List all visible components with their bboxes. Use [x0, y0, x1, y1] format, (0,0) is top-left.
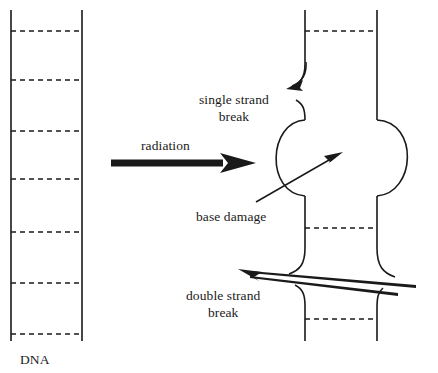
base-damage-pointer-shaft: [256, 156, 336, 202]
single-strand-break-pointer-head: [286, 80, 303, 91]
single-strand-break-pointer-arrow: [286, 62, 306, 91]
base-damage-label: base damage: [196, 209, 266, 226]
damaged-dna-right-strand-lower-mid: [377, 196, 395, 277]
damaged-dna-left-strand-bottom: [295, 285, 305, 341]
damaged-dna-left-strand-bubble: [276, 120, 305, 196]
double-strand-break-pointer-arrow: [238, 269, 416, 296]
dna-label: DNA: [20, 352, 50, 369]
radiation-arrow-shaft: [111, 160, 223, 167]
radiation-arrow: [111, 153, 256, 173]
intact-dna-group: [11, 10, 82, 341]
base-damage-pointer-head: [324, 152, 343, 164]
damaged-dna-left-strand-lower-mid: [289, 196, 305, 274]
radiation-label: radiation: [141, 138, 190, 155]
double-strand-break-pointer-head: [238, 269, 262, 281]
radiation-arrow-head: [220, 153, 256, 173]
damaged-dna-left-strand-upper-mid: [296, 100, 305, 120]
radiation-dna-damage-figure: DNA radiation single strand break base d…: [0, 0, 438, 373]
damaged-dna-right-strand-bubble: [377, 120, 407, 196]
double-strand-break-label: double strand break: [186, 288, 260, 322]
damaged-dna-group: [276, 10, 407, 341]
damaged-dna-right-strand-bottom: [377, 288, 383, 341]
single-strand-break-label: single strand break: [199, 92, 269, 126]
